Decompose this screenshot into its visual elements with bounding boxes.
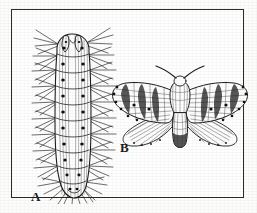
plate-frame-border: A B — [11, 9, 244, 198]
figure-label-b: B — [120, 141, 129, 154]
figure-label-a: A — [31, 190, 41, 203]
right-antenna — [184, 66, 204, 78]
left-antenna — [156, 66, 176, 78]
illustration-plate: A B — [0, 0, 257, 213]
